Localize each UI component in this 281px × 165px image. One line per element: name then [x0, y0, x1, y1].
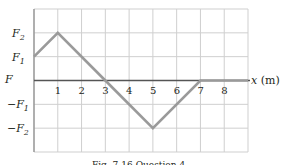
force-position-chart: 12345678 F2 F1 −F1 −F2 F x (m) Fig. 7-16…: [0, 0, 281, 165]
x-tick-labels: 12345678: [55, 85, 228, 96]
x-tick-label: 3: [102, 85, 108, 96]
x-axis-label: x (m): [251, 74, 280, 87]
y-axis-label: F: [4, 73, 13, 86]
x-tick-label: 8: [221, 85, 227, 96]
y-tick-neg-f1: −F1: [7, 98, 29, 113]
y-tick-f2: F2: [11, 27, 25, 42]
y-tick-neg-f2: −F2: [7, 122, 29, 137]
x-tick-label: 4: [126, 85, 132, 96]
chart-svg: 12345678 F2 F1 −F1 −F2 F x (m) Fig. 7-16…: [0, 0, 281, 165]
x-tick-label: 2: [79, 85, 85, 96]
x-tick-label: 6: [174, 85, 180, 96]
x-tick-label: 1: [55, 85, 61, 96]
x-tick-label: 7: [197, 85, 203, 96]
x-axis-unit: (m): [257, 74, 280, 87]
figure-caption: Fig. 7-16 Question 4.: [92, 160, 188, 165]
x-tick-label: 5: [150, 85, 156, 96]
y-tick-f1: F1: [11, 51, 25, 66]
